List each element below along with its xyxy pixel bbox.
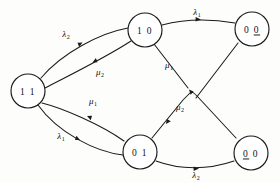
edge-path: [42, 103, 124, 141]
node-label: 1 0: [137, 26, 153, 36]
node-label: 0 0: [244, 25, 260, 35]
edge-mu2-s10-to-s11: [45, 41, 131, 88]
diagram-canvas: λ2 μ2 λ1 μ1 λ1 μ1 μ2 λ2 1 1 1 0 0 1 0 0 …: [0, 0, 280, 183]
edge-label-mu2-center: μ2: [175, 102, 184, 113]
arrowhead-icon: [74, 136, 81, 142]
state-transition-diagram: λ2 μ2 λ1 μ1 λ1 μ1 μ2 λ2 1 1 1 0 0 1 0 0 …: [0, 0, 280, 183]
edge-label-lambda2-bottom: λ2: [191, 170, 199, 181]
node-s10[interactable]: 1 0: [128, 13, 162, 47]
node-s00b[interactable]: 0 0: [234, 136, 268, 170]
edge-path: [156, 161, 234, 168]
edge-label-lambda1-top: λ1: [192, 7, 200, 18]
edge-path: [38, 105, 123, 155]
edge-path: [41, 28, 128, 78]
edge-mu1-s01-to-s11: [42, 103, 124, 141]
edge-path: [154, 43, 238, 98]
edge-label-mu1-center: μ1: [164, 60, 173, 71]
edge-mu2-s00b-to-s10: [152, 92, 236, 138]
node-s00a[interactable]: 0 0: [235, 12, 269, 46]
edge-path: [45, 41, 131, 88]
node-s01[interactable]: 0 1: [123, 135, 157, 169]
edge-label-mu1-lower-left: μ1: [88, 96, 97, 107]
edge-path: [162, 20, 235, 25]
edge-label-lambda1-lower-left: λ1: [56, 131, 64, 142]
edge-lambda1-s10-to-s00a: [162, 17, 235, 25]
node-label: 1 1: [20, 87, 36, 97]
node-s11[interactable]: 1 1: [11, 74, 45, 108]
edge-lambda2-s11-to-s10: [41, 28, 128, 78]
arrowhead-icon: [86, 114, 93, 120]
edge-label-mu2-upper-left: μ2: [95, 67, 104, 78]
edge-path: [152, 92, 236, 138]
arrowhead-icon: [187, 88, 194, 95]
edge-lambda1-s11-to-s01: [38, 105, 123, 155]
node-label: 0 1: [132, 148, 148, 158]
edge-mu1-s00a-to-s01: [154, 43, 238, 98]
edge-label-lambda2-upper-left: λ2: [61, 29, 69, 40]
node-label: 0 0: [243, 149, 259, 159]
arrowhead-icon: [196, 17, 202, 22]
